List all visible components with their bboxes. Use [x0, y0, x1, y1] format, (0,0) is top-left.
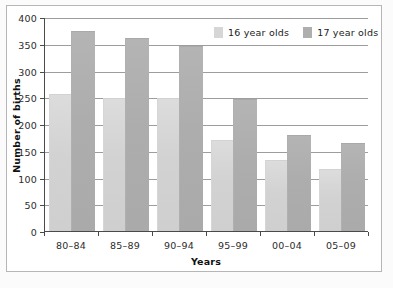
bar-85-89-16: [103, 98, 127, 232]
y-axis-tick-label: 300: [18, 66, 37, 77]
y-axis-tick: [40, 98, 44, 99]
x-axis-tick-label: 85–89: [110, 240, 140, 251]
legend-label-17: 17 year olds: [317, 27, 378, 38]
y-axis-tick-label: 200: [18, 120, 37, 131]
legend-swatch-16-icon: [214, 27, 223, 38]
bar-00-04-17: [287, 135, 311, 232]
bar-95-99-16: [211, 140, 235, 232]
x-axis-tick: [152, 232, 153, 236]
bar-90-94-17: [179, 46, 203, 232]
y-axis-tick: [40, 45, 44, 46]
bar-05-09-17: [341, 143, 365, 232]
y-axis-tick-label: 50: [25, 200, 38, 211]
x-axis-tick: [368, 232, 369, 236]
y-axis-tick: [40, 205, 44, 206]
legend-entry-16: 16 year olds: [214, 27, 289, 38]
bar-05-09-16: [319, 169, 343, 232]
y-axis-tick-label: 250: [18, 93, 37, 104]
x-axis-tick-label: 80–84: [56, 240, 86, 251]
bar-95-99-17: [233, 99, 257, 232]
y-axis-tick: [40, 125, 44, 126]
x-axis-tick-label: 05–09: [326, 240, 356, 251]
legend-label-16: 16 year olds: [228, 27, 289, 38]
x-axis-tick: [98, 232, 99, 236]
y-axis-tick: [40, 72, 44, 73]
x-axis-tick-label: 95–99: [218, 240, 248, 251]
y-axis-tick: [40, 179, 44, 180]
y-axis-tick-label: 350: [18, 39, 37, 50]
y-axis-tick-label: 400: [18, 13, 37, 24]
y-axis-tick-label: 100: [18, 173, 37, 184]
gridline: [44, 18, 368, 19]
y-axis-line: [44, 18, 45, 232]
x-axis-title: Years: [44, 256, 368, 267]
x-axis-tick: [206, 232, 207, 236]
y-axis-tick: [40, 152, 44, 153]
chart-legend: 16 year olds 17 year olds: [214, 27, 378, 38]
y-axis-tick: [40, 18, 44, 19]
x-axis-tick: [44, 232, 45, 236]
y-axis-tick-label: 150: [18, 146, 37, 157]
x-axis-tick-label: 00–04: [272, 240, 302, 251]
x-axis-tick: [314, 232, 315, 236]
bar-90-94-16: [157, 98, 181, 232]
legend-swatch-17-icon: [303, 27, 312, 38]
bar-85-89-17: [125, 38, 149, 232]
bar-80-84-17: [71, 31, 95, 232]
x-axis-tick: [260, 232, 261, 236]
y-axis-tick-label: 0: [31, 227, 37, 238]
x-axis-tick-label: 90–94: [164, 240, 194, 251]
chart-figure: Number of births 05010015020025030035040…: [0, 0, 393, 288]
plot-area: 050100150200250300350400 80–8485–8990–94…: [44, 18, 368, 232]
bar-00-04-16: [265, 160, 289, 232]
bar-80-84-16: [49, 94, 73, 232]
legend-entry-17: 17 year olds: [303, 27, 378, 38]
